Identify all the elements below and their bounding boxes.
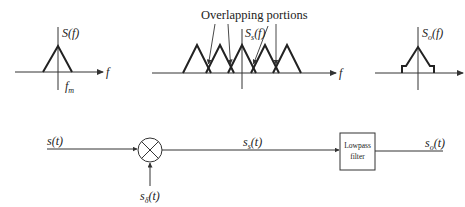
sampled-spectrum-plot: Overlapping portions Ss(f) f [152,8,344,89]
output-spectrum-plot: So(f) [375,26,463,90]
sampling-signal-label: sδ(t) [140,189,160,205]
filter-label-line2: filter [350,152,365,161]
spectrum-label: So(f) [422,26,443,42]
block-diagram: s(t) sδ(t) ss(t) Lowpass filter so(t) [47,133,445,205]
output-signal-label: so(t) [425,136,445,152]
fm-label: fm [65,79,74,95]
freq-label: f [339,66,344,80]
sampled-signal-label: ss(t) [243,135,262,151]
original-spectrum-plot: S(f) f fm [15,26,111,95]
spectrum-label: Ss(f) [245,26,265,42]
overlap-annotation: Overlapping portions [201,8,308,22]
spectrum-label: S(f) [62,26,79,40]
filter-label-line1: Lowpass [344,141,371,150]
diagram-canvas: S(f) f fm Overlapping portions Ss(f) f S… [0,0,465,207]
multiplier-node [138,138,162,162]
overlap-arrow [228,24,231,64]
input-signal-label: s(t) [47,134,63,148]
replica-triangle [183,45,211,73]
lowpass-filter-block: Lowpass filter [340,133,375,170]
freq-label: f [106,65,111,79]
